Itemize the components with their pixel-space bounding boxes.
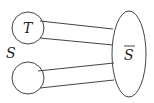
edge-line [40,80,114,88]
edge-line [40,38,113,45]
edge-line [40,21,113,29]
diagram-canvas: T S S [0,0,154,103]
bottom-circle [12,62,44,94]
label-s: S [6,45,16,61]
label-t: T [23,20,34,36]
diagram: T S S [0,0,154,103]
edge-line [38,63,114,71]
label-s-bar: S [124,47,134,63]
